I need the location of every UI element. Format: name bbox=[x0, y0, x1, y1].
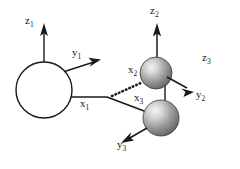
axis-label-x2-sub: 2 bbox=[134, 69, 138, 78]
body-1-circle bbox=[16, 62, 72, 118]
axis-label-y2-sub: 2 bbox=[202, 94, 206, 103]
axis-label-x2: x2 bbox=[128, 64, 137, 78]
axis-label-x1-sub: 1 bbox=[86, 103, 90, 112]
axis-label-x1: x1 bbox=[80, 98, 89, 112]
y2-axis-shaft bbox=[167, 77, 187, 88]
body-2-sphere bbox=[140, 57, 172, 89]
axis-label-y1: y1 bbox=[72, 47, 81, 61]
y1-arrowhead bbox=[89, 58, 102, 67]
axis-label-x3-sub: 3 bbox=[140, 97, 144, 106]
axis-label-z2-sub: 2 bbox=[155, 10, 159, 19]
axis-label-z2: z2 bbox=[150, 5, 159, 19]
axis-label-y1-sub: 1 bbox=[78, 52, 82, 61]
axis-label-z1-sub: 1 bbox=[30, 20, 34, 29]
body-3-sphere bbox=[143, 100, 179, 136]
axis-label-z3: z3 bbox=[202, 52, 211, 66]
axis-label-z3-sub: 3 bbox=[207, 57, 211, 66]
y2-arrowhead bbox=[181, 89, 194, 97]
axis-label-x3: x3 bbox=[134, 92, 143, 106]
coordinate-frames-figure: z1 y1 x1 z2 y2 x2 z3 y3 x3 bbox=[0, 0, 240, 169]
axis-label-z1: z1 bbox=[25, 15, 34, 29]
y1-axis-shaft bbox=[63, 62, 94, 72]
axis-label-y2: y2 bbox=[196, 89, 205, 103]
axis-label-y3: y3 bbox=[117, 139, 126, 153]
axis-label-y3-sub: 3 bbox=[123, 144, 127, 153]
